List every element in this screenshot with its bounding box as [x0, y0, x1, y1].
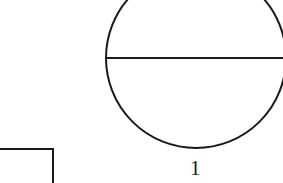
circle-part-number-label: 1 — [190, 158, 201, 179]
line-drawing-svg — [0, 0, 283, 183]
drawing-canvas: 1 — [0, 0, 283, 183]
rectangle-corner-bottom-left — [0, 149, 53, 183]
circle-outline — [106, 0, 283, 148]
